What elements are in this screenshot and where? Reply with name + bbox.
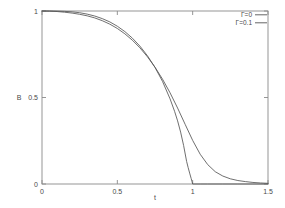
plot-border <box>42 11 268 184</box>
x-axis-tick-labels: 00.511.5 <box>40 188 273 195</box>
y-tick-label: 0 <box>34 181 38 188</box>
legend-label-1: Γ=0.1 <box>236 19 253 26</box>
y-tick-label: 1 <box>34 8 38 15</box>
chart-figure: 00.511.5 00.51 t B Γ=0Γ=0.1 <box>0 0 285 208</box>
legend: Γ=0Γ=0.1 <box>236 11 267 26</box>
series-line-1 <box>42 11 268 183</box>
y-tick-label: 0.5 <box>28 94 38 101</box>
y-axis-ticks <box>42 11 268 184</box>
legend-label-0: Γ=0 <box>241 11 252 18</box>
series-line-0 <box>42 11 268 184</box>
x-tick-label: 1 <box>191 188 195 195</box>
line-chart: 00.511.5 00.51 t B Γ=0Γ=0.1 <box>0 0 285 208</box>
y-axis-tick-labels: 00.51 <box>28 8 38 188</box>
x-axis-title: t <box>154 194 156 201</box>
series-group <box>42 11 268 184</box>
y-axis-title: B <box>17 94 22 101</box>
x-tick-label: 0 <box>40 188 44 195</box>
x-axis-ticks <box>42 11 268 184</box>
x-tick-label: 0.5 <box>112 188 122 195</box>
x-tick-label: 1.5 <box>263 188 273 195</box>
